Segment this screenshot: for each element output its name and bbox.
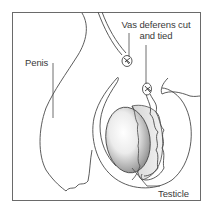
label-penis: Penis bbox=[25, 57, 48, 68]
vasectomy-diagram: Penis Vas deferens cut and tied Testicle bbox=[0, 0, 214, 221]
label-vas-deferens: Vas deferens cut and tied bbox=[116, 19, 196, 41]
label-vas-deferens-line1: Vas deferens cut bbox=[116, 19, 196, 30]
label-vas-deferens-line2: and tied bbox=[116, 30, 196, 41]
penis-outline bbox=[40, 13, 92, 191]
label-testicle: Testicle bbox=[158, 188, 189, 199]
skin-fold-right bbox=[161, 78, 200, 96]
